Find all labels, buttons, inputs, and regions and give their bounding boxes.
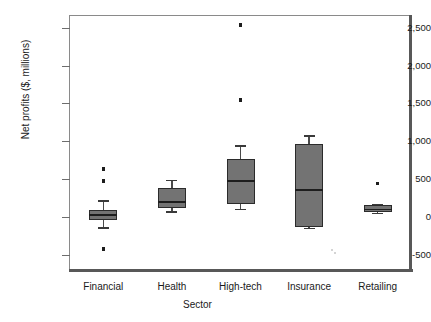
- box-plot-retailing: [0, 0, 431, 322]
- x-axis-title: Sector: [0, 299, 431, 310]
- box-plot-chart: -50005001,0001,5002,0002,500 Net profits…: [0, 0, 431, 322]
- outlier-point: [376, 182, 379, 185]
- whisker-cap-lower: [372, 213, 383, 214]
- x-axis-tick-label-retailing: Retailing: [335, 281, 421, 292]
- artifact-speck: [334, 252, 336, 254]
- x-axis-title-text: Sector: [183, 299, 212, 310]
- artifact-speck: [331, 249, 333, 251]
- median-line: [364, 209, 392, 211]
